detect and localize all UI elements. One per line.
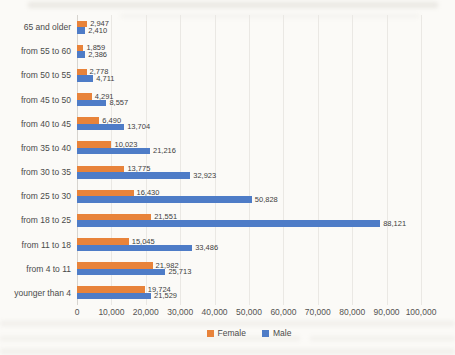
bar-group: 16,43050,828 <box>77 184 421 208</box>
category-label: from 4 to 11 <box>0 257 71 281</box>
data-label: 4,711 <box>96 75 114 83</box>
bar-line: 88,121 <box>77 220 421 227</box>
male-bar <box>77 148 150 155</box>
legend-label-male: Male <box>273 328 291 338</box>
male-bar <box>77 220 380 227</box>
gridline <box>421 15 422 305</box>
category-label: from 45 to 50 <box>0 88 71 112</box>
scan-artifact <box>0 349 455 354</box>
male-bar <box>77 172 190 179</box>
bar-line: 13,704 <box>77 124 421 131</box>
male-bar <box>77 245 192 252</box>
female-swatch-icon <box>207 330 214 337</box>
category-label: from 25 to 30 <box>0 184 71 208</box>
data-label: 25,713 <box>168 268 191 276</box>
bar-line: 33,486 <box>77 245 421 252</box>
bar-line: 2,386 <box>77 51 421 58</box>
data-label: 2,410 <box>88 27 107 35</box>
male-bar <box>77 269 165 276</box>
legend-label-female: Female <box>218 328 246 338</box>
bar-line: 25,713 <box>77 269 421 276</box>
bar-group: 2,7784,711 <box>77 63 421 87</box>
category-label: from 55 to 60 <box>0 39 71 63</box>
male-bar <box>77 196 252 203</box>
male-bar <box>77 100 106 107</box>
bar-group: 10,02321,216 <box>77 136 421 160</box>
category-label: from 18 to 25 <box>0 208 71 232</box>
x-tick-label: 10,000 <box>98 308 124 317</box>
data-label: 2,386 <box>88 51 107 59</box>
bar-line: 21,529 <box>77 293 421 300</box>
data-label: 32,923 <box>193 172 216 180</box>
legend-item-female: Female <box>207 328 246 338</box>
male-bar <box>77 75 93 82</box>
data-label: 88,121 <box>383 220 406 228</box>
category-label: from 35 to 40 <box>0 136 71 160</box>
bar-line: 21,216 <box>77 148 421 155</box>
x-tick-label: 100,000 <box>406 308 437 317</box>
data-label: 33,486 <box>195 244 218 252</box>
legend: Female Male <box>77 328 421 338</box>
x-tick-label: 20,000 <box>133 308 159 317</box>
x-tick-label: 0 <box>75 308 80 317</box>
x-axis: 010,00020,00030,00040,00050,00060,00070,… <box>77 308 421 320</box>
bar-line: 32,923 <box>77 172 421 179</box>
x-tick-label: 60,000 <box>270 308 296 317</box>
legend-item-male: Male <box>262 328 291 338</box>
bar-group: 19,72421,529 <box>77 281 421 305</box>
bar-line: 50,828 <box>77 196 421 203</box>
data-label: 50,828 <box>255 196 278 204</box>
category-axis: 65 and olderfrom 55 to 60from 50 to 55fr… <box>0 15 71 305</box>
male-bar <box>77 124 124 131</box>
scanned-chart-page: 65 and olderfrom 55 to 60from 50 to 55fr… <box>0 0 455 355</box>
bar-group: 6,49013,704 <box>77 112 421 136</box>
data-label: 21,529 <box>154 292 177 300</box>
bar-group: 13,77532,923 <box>77 160 421 184</box>
male-bar <box>77 27 85 34</box>
category-label: from 40 to 45 <box>0 112 71 136</box>
data-label: 8,557 <box>109 99 128 107</box>
x-tick-label: 70,000 <box>305 308 331 317</box>
bar-group: 21,98225,713 <box>77 257 421 281</box>
data-label: 13,704 <box>127 123 150 131</box>
bar-line: 2,410 <box>77 27 421 34</box>
category-label: from 11 to 18 <box>0 233 71 257</box>
male-bar <box>77 293 151 300</box>
category-label: from 50 to 55 <box>0 63 71 87</box>
x-tick-label: 30,000 <box>167 308 193 317</box>
scan-artifact <box>0 321 455 326</box>
x-tick-label: 90,000 <box>374 308 400 317</box>
bar-group: 1,8592,386 <box>77 39 421 63</box>
category-label: 65 and older <box>0 15 71 39</box>
data-label: 21,216 <box>153 147 176 155</box>
plot-area: 2,9472,4101,8592,3862,7784,7114,2918,557… <box>77 15 421 305</box>
x-tick-label: 40,000 <box>202 308 228 317</box>
male-bar <box>77 51 85 58</box>
male-swatch-icon <box>262 330 269 337</box>
category-label: from 30 to 35 <box>0 160 71 184</box>
rows: 2,9472,4101,8592,3862,7784,7114,2918,557… <box>77 15 421 305</box>
bar-line: 8,557 <box>77 100 421 107</box>
scan-artifact <box>28 2 438 8</box>
bar-line: 4,711 <box>77 75 421 82</box>
x-tick-label: 50,000 <box>236 308 262 317</box>
category-label: younger than 4 <box>0 281 71 305</box>
bar-group: 2,9472,410 <box>77 15 421 39</box>
bar-group: 15,04533,486 <box>77 233 421 257</box>
x-tick-label: 80,000 <box>339 308 365 317</box>
bar-group: 4,2918,557 <box>77 88 421 112</box>
bar-group: 21,55188,121 <box>77 208 421 232</box>
